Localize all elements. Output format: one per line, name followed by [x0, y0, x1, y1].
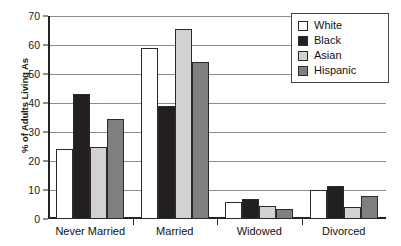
- bar: [225, 202, 242, 219]
- legend-item[interactable]: Asian: [298, 48, 383, 63]
- legend-item-label: Asian: [314, 50, 342, 61]
- bar-chart: % of Adults Living As 010203040506070 Ne…: [0, 0, 401, 246]
- bar: [175, 29, 192, 219]
- bar: [344, 207, 361, 219]
- y-tick-label: 10: [12, 184, 40, 196]
- bar: [276, 209, 293, 219]
- bar: [141, 48, 158, 219]
- legend-item[interactable]: Hispanic: [298, 63, 383, 78]
- bar: [310, 190, 327, 219]
- legend-item[interactable]: White: [298, 18, 383, 33]
- y-tick-mark: [43, 219, 48, 220]
- gridline: [50, 103, 386, 104]
- legend-swatch-icon: [298, 36, 308, 46]
- y-tick-mark: [43, 190, 48, 191]
- y-tick-label: 30: [12, 126, 40, 138]
- y-tick-mark: [43, 45, 48, 46]
- y-tick-label: 60: [12, 39, 40, 51]
- bar: [56, 149, 73, 219]
- legend-item-label: Hispanic: [314, 65, 356, 76]
- x-axis-group-label: Never Married: [55, 225, 125, 237]
- y-tick-mark: [43, 74, 48, 75]
- legend: WhiteBlackAsianHispanic: [291, 13, 389, 83]
- x-axis-tick: [302, 219, 303, 225]
- legend-swatch-icon: [298, 66, 308, 76]
- bar: [107, 119, 124, 219]
- x-axis-group-label: Married: [156, 225, 193, 237]
- legend-item-label: Black: [314, 35, 341, 46]
- bar: [259, 206, 276, 219]
- y-tick-label: 0: [12, 213, 40, 225]
- x-axis-group-label: Widowed: [237, 225, 282, 237]
- gridline: [50, 132, 386, 133]
- bar: [73, 94, 90, 219]
- legend-swatch-icon: [298, 21, 308, 31]
- x-axis-tick: [133, 219, 134, 225]
- y-tick-label: 70: [12, 10, 40, 22]
- legend-swatch-icon: [298, 51, 308, 61]
- y-tick-mark: [43, 161, 48, 162]
- y-tick-mark: [43, 103, 48, 104]
- y-tick-label: 40: [12, 97, 40, 109]
- y-tick-label: 50: [12, 68, 40, 80]
- y-tick-mark: [43, 132, 48, 133]
- bar: [192, 62, 209, 219]
- bar: [158, 106, 175, 219]
- bar: [242, 199, 259, 219]
- legend-item[interactable]: Black: [298, 33, 383, 48]
- bar: [327, 186, 344, 219]
- y-tick-label: 20: [12, 155, 40, 167]
- x-axis-group-label: Divorced: [322, 225, 365, 237]
- y-tick-mark: [43, 16, 48, 17]
- bar: [90, 147, 107, 220]
- legend-item-label: White: [314, 20, 342, 31]
- x-axis-tick: [217, 219, 218, 225]
- bar: [361, 196, 378, 219]
